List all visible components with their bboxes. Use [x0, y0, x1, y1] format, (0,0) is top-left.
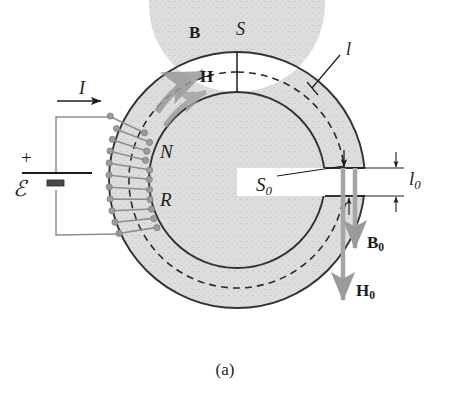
- label-S0: S0: [256, 175, 272, 198]
- label-l0-subscript: 0: [414, 177, 420, 192]
- label-S0-base: S: [256, 174, 266, 195]
- label-l0: l0: [409, 169, 421, 192]
- label-B0-subscript: 0: [378, 241, 384, 254]
- label-S: S: [236, 20, 245, 38]
- toroid-diagram-svg: [0, 0, 450, 395]
- label-l: l: [346, 40, 351, 58]
- label-R: R: [160, 190, 172, 209]
- label-B0: B0: [367, 234, 384, 254]
- label-H0-subscript: 0: [369, 289, 375, 302]
- label-H0-base: H: [356, 281, 369, 300]
- label-N: N: [160, 142, 173, 161]
- label-S0-subscript: 0: [266, 183, 272, 198]
- label-B: B: [189, 24, 200, 41]
- label-emf: ℰ: [13, 178, 26, 200]
- label-I: I: [79, 79, 85, 97]
- figure-container: B S l H I N R + ℰ S0 l0 B0 H0 (a): [0, 0, 450, 395]
- battery-symbol: [22, 173, 92, 186]
- label-battery-plus: +: [21, 148, 32, 167]
- label-B0-base: B: [367, 233, 378, 252]
- figure-caption: (a): [0, 360, 450, 380]
- label-H: H: [200, 68, 213, 85]
- label-H0: H0: [356, 282, 375, 302]
